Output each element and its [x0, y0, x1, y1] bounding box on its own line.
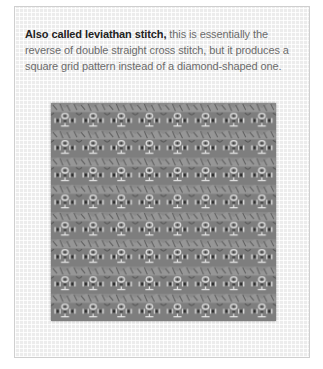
stitch-name-lead: Also called leviathan stitch,: [25, 28, 166, 40]
stitch-pattern-graphic: [51, 103, 276, 321]
stitch-sample-image: [51, 103, 276, 321]
stitch-illustration-panel: Also called leviathan stitch, this is es…: [14, 6, 310, 358]
stitch-description: Also called leviathan stitch, this is es…: [25, 26, 305, 74]
